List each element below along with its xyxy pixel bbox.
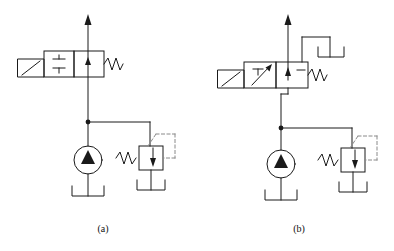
panel-a-caption: (a): [97, 223, 108, 235]
hydraulic-circuit-diagram: (a) (b): [0, 0, 394, 251]
figure-root: (a) (b): [0, 0, 394, 251]
panel-b-caption: (b): [293, 223, 305, 235]
canvas-background: [0, 0, 394, 251]
